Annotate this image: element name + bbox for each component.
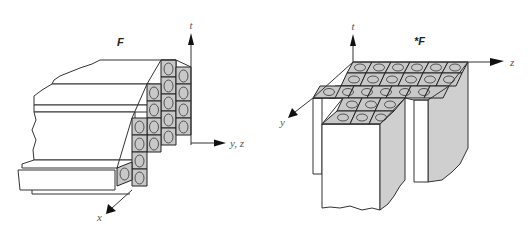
cell (147, 84, 161, 101)
cell (132, 152, 147, 169)
cell (132, 118, 147, 135)
left-axis-yz-label: y, z (229, 137, 245, 149)
cell (161, 111, 176, 128)
cell (132, 169, 147, 186)
cell (161, 94, 176, 111)
left-axis-t-label: t (189, 19, 193, 31)
arrow-down-left-icon (288, 108, 298, 118)
right-panel-title: *F (414, 35, 425, 47)
top-grid-main (313, 62, 468, 98)
arrow-right-icon (490, 58, 504, 66)
arrow-up-icon (188, 33, 194, 45)
arrow-up-icon (350, 34, 356, 46)
cell (147, 101, 161, 118)
cell (132, 135, 147, 152)
cell (176, 101, 191, 118)
right-panel: *F t z y (279, 20, 515, 210)
cell (147, 135, 161, 152)
cell (161, 60, 176, 77)
left-panel: F t y, z x (18, 19, 245, 223)
right-axis-z-label: z (509, 56, 515, 68)
cell (176, 84, 191, 101)
arrow-right-icon (214, 140, 226, 147)
cell (176, 118, 191, 135)
right-axis-y-label: y (279, 116, 285, 128)
cell (176, 67, 191, 84)
right-axis-t-label: t (351, 20, 355, 32)
left-panel-title: F (117, 36, 124, 48)
cell (161, 77, 176, 94)
cell (147, 118, 161, 135)
left-axis-x-label: x (96, 211, 102, 223)
cell (161, 128, 176, 145)
diagram-canvas: F t y, z x (0, 0, 528, 231)
